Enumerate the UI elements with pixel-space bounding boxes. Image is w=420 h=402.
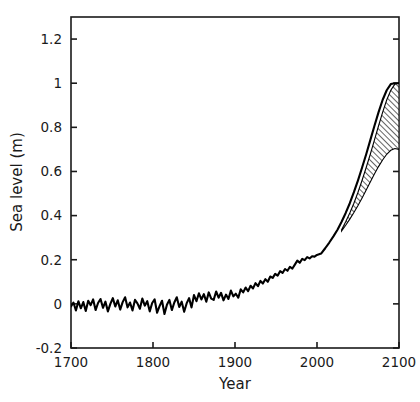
x-tick-label: 1700 <box>54 354 88 370</box>
y-tick-label: 1.2 <box>41 31 62 47</box>
x-tick-label: 1800 <box>136 354 170 370</box>
y-axis-title: Sea level (m) <box>8 132 26 231</box>
x-tick-label: 2100 <box>382 354 416 370</box>
y-tick-label: 0.6 <box>41 163 62 179</box>
x-axis-title: Year <box>218 375 252 393</box>
y-tick-label: 0 <box>53 296 62 312</box>
y-tick-label: 0.8 <box>41 119 62 135</box>
x-tick-label: 1900 <box>218 354 252 370</box>
y-tick-label: 0.2 <box>41 252 62 268</box>
sea-level-chart: -0.200.20.40.60.811.2 170018001900200021… <box>0 0 420 402</box>
chart-figure: -0.200.20.40.60.811.2 170018001900200021… <box>0 0 420 402</box>
y-tick-label: 1 <box>53 75 62 91</box>
x-tick-label: 2000 <box>300 354 334 370</box>
y-tick-label: 0.4 <box>41 207 62 223</box>
